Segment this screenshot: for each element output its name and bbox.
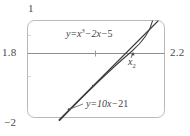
linear-equation-label: y=10x−21	[86, 99, 128, 109]
curve-marker-dot	[92, 85, 94, 87]
cubic-term-two: 2x	[91, 28, 100, 39]
linear-constant: 21	[118, 98, 128, 109]
linear-slope-term: 10x	[97, 98, 111, 109]
cubic-minus-two: −	[101, 28, 108, 39]
viewport-xmax-label: 2.2	[170, 47, 184, 58]
viewport-ymin-label: −2	[4, 117, 16, 128]
viewport-xmin-label: 1.8	[2, 47, 16, 58]
root-x2-label: x2	[128, 57, 136, 70]
root-x2-subscript: 2	[132, 62, 135, 69]
graph-figure	[0, 0, 190, 136]
cubic-equation-label: y=x3−2x−5	[66, 28, 113, 39]
linear-label-dot	[68, 108, 71, 111]
cubic-constant: 5	[108, 28, 113, 39]
viewport-ymax-label: 1	[28, 3, 34, 14]
